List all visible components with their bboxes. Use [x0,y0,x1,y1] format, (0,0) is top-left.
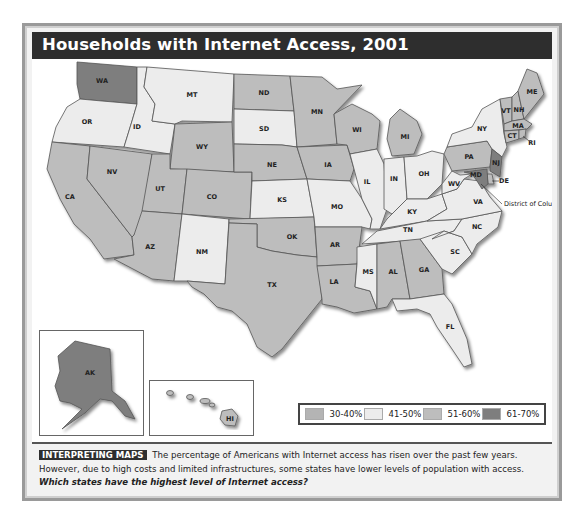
state-label-wa: WA [96,77,108,85]
state-label: FL [446,323,455,331]
state-label: NY [477,125,487,133]
state-ak [55,341,135,429]
state-label: IL [364,178,371,186]
state-label: OH [419,170,430,178]
state-label: MA [512,122,524,130]
state-label: WY [196,143,208,151]
state-label: WV [448,180,460,188]
state-label: RI [528,139,535,147]
state-label: MT [187,91,198,99]
state-label: TX [267,281,276,289]
state-label: UT [155,185,165,193]
legend-swatch [482,408,501,420]
interpreting-maps-caption: INTERPRETING MAPS The percentage of Amer… [39,449,547,490]
legend-swatch [423,408,442,420]
state-label: WI [352,126,362,134]
map-area: WA OR CA ID NV MT WY UT AZ CO NM ND SD N… [32,59,552,442]
caption-question: Which states have the highest level of I… [39,477,308,487]
state-label: AL [388,268,397,276]
legend-item-41-50: 41-50% [364,408,422,420]
legend-swatch [305,408,324,420]
state-label: AZ [145,243,155,251]
state-label: HI [226,415,234,423]
state-label: AR [330,241,340,249]
legend-item-61-70: 61-70% [482,408,540,420]
state-label: MI [401,133,410,141]
state-label: KY [407,208,417,216]
state-label: SD [259,125,270,133]
state-label: OK [287,233,299,241]
state-label: ME [527,88,538,96]
state-label: ND [259,89,270,97]
state-label: AK [85,369,96,377]
state-label: MO [331,203,343,211]
state-label: LA [329,278,338,286]
state-label: MN [311,108,323,116]
state-hi [200,399,210,404]
state-label: MD [470,171,482,179]
state-label: SC [450,248,460,256]
title-bar: Households with Internet Access, 2001 [32,32,552,59]
state-label: NM [196,248,208,256]
state-label: NJ [492,159,500,167]
map-title: Households with Internet Access, 2001 [42,35,409,54]
dc-annotation: District of Columbia, 52.8 [504,200,552,208]
state-label: VA [473,198,483,206]
map-figure: Households with Internet Access, 2001 [22,23,562,501]
legend-swatch [364,408,383,420]
state-hi [187,395,194,400]
state-label: IN [390,175,398,183]
state-label: IA [324,161,331,169]
legend-item-51-60: 51-60% [423,408,481,420]
state-label: NV [107,168,117,176]
state-label: TN [403,226,413,234]
map-legend: 30-40% 41-50% 51-60% 61-70% [298,403,546,425]
alaska-inset: AK [39,330,144,436]
state-label: CT [507,132,517,140]
state-label: VT [501,107,511,115]
state-label: DE [499,177,509,185]
state-label: CA [65,193,75,201]
legend-item-30-40: 30-40% [305,408,363,420]
state-label: ID [133,123,141,131]
state-label: PA [464,153,473,161]
state-label: NE [267,161,277,169]
state-label: NH [514,106,525,114]
state-label: CO [207,193,218,201]
state-fl [392,294,472,367]
state-label: KS [277,196,287,204]
state-label: NC [472,223,482,231]
state-hi [167,391,174,396]
state-label: GA [419,266,429,274]
caption-tag: INTERPRETING MAPS [39,450,147,460]
caption-divider [32,442,552,444]
state-hi [209,403,215,407]
state-or [52,99,137,147]
hawaii-inset: HI [149,380,254,436]
state-label: MS [362,268,373,276]
state-label: OR [82,118,93,126]
